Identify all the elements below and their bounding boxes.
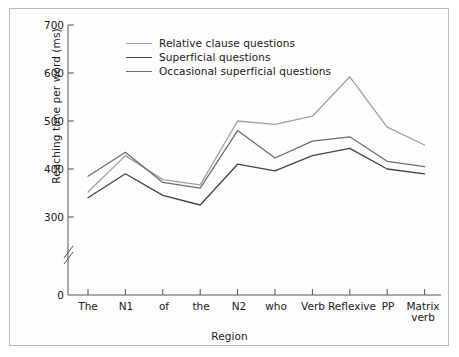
series-line-relative-clause-questions (88, 77, 425, 192)
figure-container: Reaching time per word (ms) Region 700 6… (0, 0, 459, 357)
line-chart-plot (0, 0, 459, 357)
series-line-superficial-questions (88, 148, 425, 205)
x-axis-ticks (88, 289, 425, 295)
data-series-group (88, 77, 425, 205)
series-line-occasional-superficial-questions (88, 131, 425, 189)
